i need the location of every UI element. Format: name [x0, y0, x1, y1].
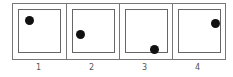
panel-label-4: 4: [171, 63, 224, 72]
dot-icon: [76, 30, 85, 39]
panel-3: [119, 4, 172, 59]
panel-4: [172, 4, 225, 59]
panel-label-2: 2: [65, 63, 118, 72]
panel-frame: [12, 3, 226, 60]
panel-1: [13, 4, 66, 59]
dot-icon: [150, 45, 159, 54]
panel-3-square: [125, 9, 168, 53]
panel-4-square: [178, 9, 221, 53]
panel-1-square: [18, 9, 61, 53]
panel-2-square: [72, 9, 115, 53]
panel-label-3: 3: [118, 63, 171, 72]
dot-icon: [211, 19, 220, 28]
panel-label-1: 1: [12, 63, 65, 72]
panel-2: [66, 4, 119, 59]
dot-icon: [25, 16, 34, 25]
